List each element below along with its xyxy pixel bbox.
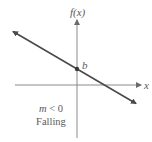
y-axis-label: f(x) [70,6,86,19]
slope-condition-label: m < 0 [39,103,63,114]
intercept-label: b [82,59,88,71]
slope-description-label: Falling [36,116,67,127]
linear-function-diagram: f(x) x b m < 0 Falling [0,0,152,142]
falling-line [13,32,136,104]
x-axis-label: x [143,79,149,91]
y-intercept-point [75,67,79,71]
